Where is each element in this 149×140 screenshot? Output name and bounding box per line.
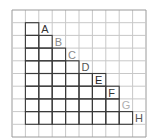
staircase-cell [92, 112, 105, 125]
staircase-cell [39, 112, 52, 125]
staircase-cell [66, 74, 79, 87]
staircase-cell [39, 86, 52, 99]
staircase-cell [52, 99, 65, 112]
staircase-cell [39, 74, 52, 87]
staircase-cell [92, 99, 105, 112]
staircase-cell [92, 86, 105, 99]
staircase-cell [52, 86, 65, 99]
step-label-g: G [122, 99, 131, 111]
step-label-e: E [95, 74, 102, 86]
staircase-cell [79, 74, 92, 87]
step-label-f: F [108, 87, 115, 99]
staircase-cell [79, 112, 92, 125]
staircase-cell [119, 112, 132, 125]
staircase-cell [79, 86, 92, 99]
step-label-c: C [68, 49, 76, 61]
staircase-cell [52, 74, 65, 87]
staircase-cell [66, 99, 79, 112]
staircase-cell [25, 23, 38, 36]
staircase-grid-diagram: ABCDEFGH [0, 0, 149, 140]
staircase-cell [66, 61, 79, 74]
staircase-cell [66, 112, 79, 125]
staircase-cell [52, 61, 65, 74]
staircase-cell [25, 74, 38, 87]
staircase-cell [39, 48, 52, 61]
step-label-b: B [55, 36, 62, 48]
staircase-cell [25, 48, 38, 61]
staircase-cell [39, 99, 52, 112]
staircase-cell [25, 35, 38, 48]
staircase-cell [66, 86, 79, 99]
step-label-h: H [135, 112, 143, 124]
staircase-cell [25, 86, 38, 99]
step-label-a: A [41, 23, 49, 35]
staircase-cell [25, 61, 38, 74]
staircase-cell [106, 112, 119, 125]
staircase-cell [39, 35, 52, 48]
staircase-cell [106, 99, 119, 112]
staircase-cell [25, 99, 38, 112]
staircase-cell [39, 61, 52, 74]
staircase-cell [25, 112, 38, 125]
staircase-cell [52, 48, 65, 61]
step-label-d: D [82, 61, 90, 73]
staircase-cell [52, 112, 65, 125]
staircase-cell [79, 99, 92, 112]
